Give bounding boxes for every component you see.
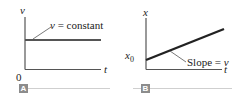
- panel-a-annotation-leader: [33, 27, 51, 39]
- panel-a-graph: v t 0 v = constant: [16, 4, 108, 83]
- panel-a-annotation-text: = constant: [55, 19, 103, 31]
- panel-b-y-label: x: [142, 6, 148, 18]
- panel-b-tag: B: [141, 84, 150, 93]
- panel-a-y-label: v: [20, 4, 25, 16]
- panel-b-annotation: Slope = v: [187, 56, 229, 68]
- panel-a-x-label: t: [104, 63, 108, 75]
- panel-a-annotation: v = constant: [50, 19, 103, 31]
- graphs-canvas: v t 0 v = constant x t x0 Slope = v: [0, 0, 241, 108]
- panel-b-intercept-sub: 0: [130, 55, 134, 64]
- panel-b-intercept-label: x0: [124, 49, 134, 64]
- panel-b-rule-left: [133, 88, 141, 89]
- panel-a-tag: A: [19, 84, 28, 93]
- panel-b-annotation-var: v: [224, 56, 229, 68]
- panel-a-rule: [28, 88, 110, 89]
- panel-b-graph: x t x0 Slope = v: [124, 6, 229, 75]
- panel-a-origin-label: 0: [16, 71, 22, 83]
- panel-b-annotation-text: Slope =: [187, 56, 224, 68]
- panel-b-annotation-leader: [170, 51, 186, 62]
- panel-b-rule: [150, 88, 232, 89]
